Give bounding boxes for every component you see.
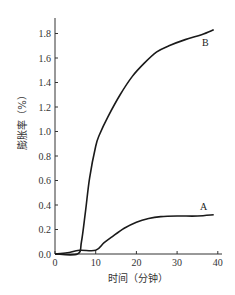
y-tick-label: 1.2	[39, 102, 52, 113]
y-tick-label: 0.0	[39, 249, 52, 260]
y-tick-label: 0.4	[39, 200, 52, 211]
axes	[55, 18, 222, 254]
x-axis-title: 时间（分钟）	[108, 272, 168, 284]
x-tick-label: 20	[131, 257, 141, 268]
y-tick-label: 0.2	[39, 224, 52, 235]
y-tick-label: 1.8	[39, 28, 52, 39]
y-tick-label: 1.0	[39, 126, 52, 137]
series-label-a: A	[200, 201, 208, 212]
y-tick-label: 0.6	[39, 175, 52, 186]
x-tick-label: 0	[53, 257, 58, 268]
series-line-b	[55, 30, 214, 255]
y-tick-label: 1.4	[39, 77, 52, 88]
series-label-b: B	[202, 37, 209, 48]
series-lines	[55, 30, 214, 255]
expansion-rate-chart: 0.00.20.40.60.81.01.21.41.61.8 010203040…	[0, 0, 235, 295]
y-axis-title: 膨胀率（%）	[16, 90, 28, 150]
y-tick-label: 1.6	[39, 53, 52, 64]
y-tick-label: 0.8	[39, 151, 52, 162]
x-tick-label: 10	[91, 257, 101, 268]
series-line-a	[55, 215, 214, 254]
x-tick-label: 30	[172, 257, 182, 268]
x-tick-label: 40	[213, 257, 223, 268]
